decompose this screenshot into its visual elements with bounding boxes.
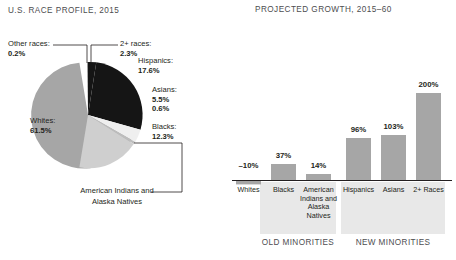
pie-label-whites-name: Whites: bbox=[30, 116, 55, 125]
pie-label-american-indians-name: American Indians and Alaska Natives bbox=[57, 186, 177, 207]
bar-category-whites: Whites bbox=[231, 186, 266, 195]
pie-label-asians-name: Asians: bbox=[152, 85, 177, 94]
pie-label-whites-value: 61.5% bbox=[30, 126, 55, 136]
bar-category-asians: Asians bbox=[376, 186, 411, 195]
leader-line-other-races bbox=[53, 45, 87, 63]
leader-line-two-plus-races bbox=[91, 45, 118, 62]
pie-label-hispanics-name: Hispanics: bbox=[138, 56, 173, 65]
pie-label-whites: Whites: 61.5% bbox=[30, 116, 55, 135]
bar-category-hispanics: Hispanics bbox=[339, 186, 378, 195]
bar-blacks bbox=[271, 164, 296, 180]
bar-value-two-plus-races: 200% bbox=[411, 80, 446, 89]
pie-label-other-races-name: Other races: bbox=[8, 39, 50, 48]
pie-label-hispanics-value: 17.6% bbox=[138, 66, 173, 76]
bar-american-indians bbox=[306, 174, 331, 180]
pie-label-asians: Asians: 5.5% bbox=[152, 85, 177, 104]
projected-growth-bar-panel: PROJECTED GROWTH, 2015–60 –10% 37% 14% 9… bbox=[228, 0, 456, 260]
pie-label-asians-value: 5.5% bbox=[152, 95, 177, 105]
pie-label-american-indians-line2: Alaska Natives bbox=[92, 197, 142, 206]
pie-slice-other-races bbox=[87, 62, 88, 115]
bar-value-asians: 103% bbox=[376, 122, 411, 131]
bar-category-american-indians: American Indians and Alaska Natives bbox=[298, 186, 339, 220]
pie-label-american-indians-line1: American Indians and bbox=[80, 186, 153, 195]
group-label-old-minorities: OLD MINORITIES bbox=[256, 238, 340, 247]
pie-label-blacks: Blacks: 12.3% bbox=[152, 122, 176, 141]
group-label-new-minorities: NEW MINORITIES bbox=[341, 238, 445, 247]
bar-category-american-indians-line4: Natives bbox=[307, 211, 331, 220]
pie-label-hispanics: Hispanics: 17.6% bbox=[138, 56, 173, 75]
bar-value-hispanics: 96% bbox=[341, 125, 376, 134]
bar-category-blacks: Blacks bbox=[266, 186, 301, 195]
leader-line-american-indians bbox=[134, 143, 182, 192]
pie-label-other-races-value: 0.2% bbox=[8, 49, 50, 59]
bar-value-whites: –10% bbox=[231, 161, 266, 170]
bar-value-american-indians: 14% bbox=[301, 161, 336, 170]
bar-asians bbox=[381, 135, 406, 180]
race-profile-pie-panel: U.S. RACE PROFILE, 2015 Other races: 0.2… bbox=[0, 0, 228, 260]
pie-label-blacks-name: Blacks: bbox=[152, 122, 176, 131]
bar-category-two-plus-races: 2+ Races bbox=[410, 186, 447, 195]
bar-value-blacks: 37% bbox=[266, 151, 301, 160]
bar-hispanics bbox=[346, 138, 371, 180]
pie-label-two-plus-races-name: 2+ races: bbox=[120, 39, 151, 48]
bar-two-plus-races bbox=[416, 93, 441, 180]
pie-label-blacks-value: 12.3% bbox=[152, 132, 176, 142]
pie-label-american-indians-value: 0.6% bbox=[152, 104, 169, 114]
pie-label-other-races: Other races: 0.2% bbox=[8, 39, 50, 58]
